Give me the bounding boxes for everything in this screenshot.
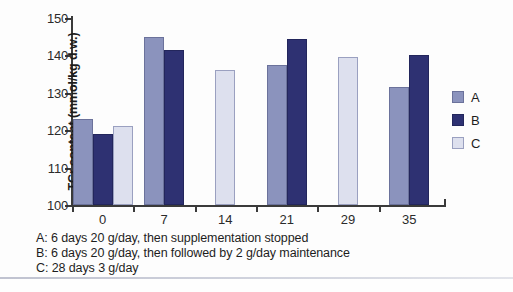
x-tick-label: 29	[341, 212, 355, 227]
bar-a-day-7	[144, 37, 164, 205]
bar-b-day-21	[287, 39, 307, 205]
bar-c-day-0	[113, 126, 133, 205]
plot-area: TCr content (mmol/kg d.w.) 1001101201301…	[72, 18, 440, 205]
bar-a-day-21	[267, 65, 287, 205]
x-axis-end-tick	[444, 199, 446, 207]
bar-c-day-29	[338, 57, 358, 205]
x-tick-label: 0	[99, 212, 106, 227]
legend-label-c: C	[471, 136, 480, 151]
bar-a-day-0	[73, 119, 93, 205]
y-tick-label: 100	[47, 198, 68, 213]
x-axis-line	[71, 205, 446, 207]
y-tick-label: 110	[48, 160, 68, 175]
x-tick-mark	[195, 205, 197, 212]
bar-b-day-0	[93, 134, 113, 205]
figure-bar-chart: TCr content (mmol/kg d.w.) 1001101201301…	[0, 0, 513, 292]
legend-item-c: C	[452, 134, 480, 152]
legend-swatch-c-icon	[452, 137, 464, 149]
page-edge-margin	[0, 279, 513, 292]
y-tick-label: 150	[47, 11, 68, 26]
x-tick-mark	[379, 205, 381, 212]
legend: A B C	[452, 88, 480, 157]
caption-line-b: B: 6 days 20 g/day, then followed by 2 g…	[36, 246, 350, 261]
x-tick-mark	[317, 205, 319, 212]
legend-item-a: A	[452, 88, 480, 106]
y-tick-label: 130	[47, 85, 68, 100]
x-tick-label: 14	[218, 212, 232, 227]
legend-swatch-a-icon	[452, 91, 464, 103]
bar-a-day-35	[389, 87, 409, 205]
bar-b-day-7	[164, 50, 184, 205]
x-tick-label: 21	[279, 212, 293, 227]
legend-item-b: B	[452, 111, 480, 129]
caption-line-a: A: 6 days 20 g/day, then supplementation…	[36, 231, 350, 246]
figure-caption: A: 6 days 20 g/day, then supplementation…	[36, 231, 350, 276]
caption-line-c: C: 28 days 3 g/day	[36, 261, 350, 276]
y-tick-label: 140	[47, 48, 68, 63]
x-tick-mark	[256, 205, 258, 212]
x-tick-mark	[72, 205, 74, 212]
legend-label-a: A	[471, 90, 480, 105]
legend-swatch-b-icon	[452, 114, 464, 126]
bar-c-day-14	[215, 70, 235, 205]
x-tick-label: 7	[160, 212, 167, 227]
y-tick-label: 120	[47, 123, 68, 138]
x-tick-label: 35	[402, 212, 416, 227]
x-tick-mark	[133, 205, 135, 212]
legend-label-b: B	[471, 113, 480, 128]
bar-b-day-35	[409, 55, 429, 205]
